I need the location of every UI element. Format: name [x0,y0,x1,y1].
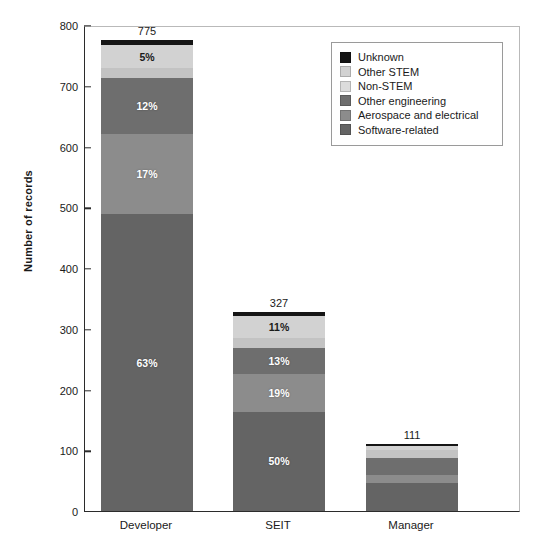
segment-percent-label: 63% [101,357,193,369]
bar-total-label: 327 [233,297,325,309]
y-axis-tick-label: 500 [38,202,78,214]
legend-swatch-icon [340,124,351,135]
bar-segment-software-related[interactable] [366,483,458,511]
y-axis-tick-mark [84,86,91,87]
y-axis-tick-label: 400 [38,263,78,275]
y-axis-tick-mark [84,208,91,209]
legend-item-other-stem[interactable]: Other STEM [340,65,492,80]
bar-manager[interactable] [366,444,458,511]
bar-segment-other-stem[interactable]: 5% [101,45,193,69]
bar-segment-aerospace-and-electrical[interactable] [366,475,458,483]
legend-item-non-stem[interactable]: Non-STEM [340,79,492,94]
segment-percent-label: 19% [233,387,325,399]
legend-swatch-icon [340,95,351,106]
y-axis-tick-mark [84,25,91,26]
y-axis-tick-label: 200 [38,385,78,397]
y-axis-tick-mark [84,451,91,452]
legend-item-other-engineering[interactable]: Other engineering [340,94,492,109]
y-axis-tick-mark [84,147,91,148]
bar-segment-aerospace-and-electrical[interactable]: 17% [101,134,193,214]
legend-item-software-related[interactable]: Software-related [340,123,492,138]
bar-developer[interactable]: 5%12%17%63% [101,40,193,511]
y-axis-tick-label: 300 [38,324,78,336]
y-axis-tick-mark [84,268,91,269]
bar-segment-non-stem[interactable] [366,450,458,457]
bar-segment-software-related[interactable]: 50% [233,412,325,511]
bar-segment-other-engineering[interactable] [366,458,458,475]
legend-item-label: Unknown [358,50,404,65]
legend-rows: UnknownOther STEMNon-STEMOther engineeri… [340,50,492,137]
legend-item-label: Software-related [358,123,439,138]
legend-swatch-icon [340,66,351,77]
stacked-bar-chart: Number of records 5%12%17%63%77511%13%19… [0,0,544,549]
chart-legend: UnknownOther STEMNon-STEMOther engineeri… [331,42,503,146]
bar-segment-other-engineering[interactable]: 13% [233,348,325,374]
legend-item-label: Aerospace and electrical [358,108,478,123]
bar-total-label: 111 [366,429,458,441]
bar-segment-other-engineering[interactable]: 12% [101,78,193,134]
segment-percent-label: 50% [233,455,325,467]
legend-item-label: Other STEM [358,65,419,80]
legend-swatch-icon [340,81,351,92]
segment-percent-label: 11% [233,321,325,333]
segment-percent-label: 12% [101,100,193,112]
bar-segment-non-stem[interactable] [233,338,325,348]
x-axis-tick-label: Developer [71,519,221,531]
bar-total-label: 775 [101,25,193,37]
legend-item-label: Other engineering [358,94,446,109]
bar-segment-other-stem[interactable]: 11% [233,316,325,338]
y-axis-tick-label: 600 [38,142,78,154]
y-axis-tick-mark [84,390,91,391]
y-axis-tick-mark [84,329,91,330]
legend-swatch-icon [340,52,351,63]
y-axis-tick-label: 100 [38,445,78,457]
legend-item-aerospace-and-electrical[interactable]: Aerospace and electrical [340,108,492,123]
x-axis-tick-label: Manager [336,519,486,531]
bar-segment-software-related[interactable]: 63% [101,214,193,511]
bar-segment-aerospace-and-electrical[interactable]: 19% [233,374,325,412]
legend-item-unknown[interactable]: Unknown [340,50,492,65]
bar-segment-non-stem[interactable] [101,68,193,77]
y-axis-tick-label: 700 [38,81,78,93]
y-axis-title: Number of records [22,141,34,301]
legend-item-label: Non-STEM [358,79,412,94]
segment-percent-label: 13% [233,355,325,367]
y-axis-tick-label: 800 [38,20,78,32]
segment-percent-label: 5% [101,51,193,63]
legend-swatch-icon [340,110,351,121]
y-axis-tick-label: 0 [38,506,78,518]
bar-seit[interactable]: 11%13%19%50% [233,312,325,511]
segment-percent-label: 17% [101,168,193,180]
x-axis-tick-label: SEIT [203,519,353,531]
